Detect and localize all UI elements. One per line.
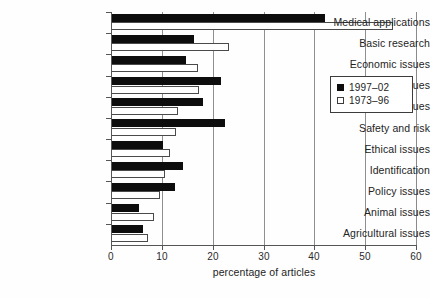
x-axis-tick-label: 20 <box>193 251 233 262</box>
x-axis-tick <box>162 245 163 250</box>
x-axis-tick <box>416 245 417 250</box>
bar <box>111 35 194 43</box>
y-axis-line <box>111 12 112 246</box>
x-axis-tick-label: 10 <box>142 251 182 262</box>
bar <box>111 64 198 72</box>
legend: 1997–02 1973–96 <box>330 76 413 113</box>
x-axis-tick <box>365 245 366 250</box>
y-axis-tick <box>106 54 111 55</box>
y-axis-tick <box>106 181 111 182</box>
y-axis-tick <box>106 97 111 98</box>
x-axis-tick-label: 50 <box>345 251 385 262</box>
bar <box>111 170 165 178</box>
bar <box>111 43 229 51</box>
legend-label: 1973–96 <box>349 95 389 106</box>
x-axis-tick-label: 30 <box>244 251 284 262</box>
bar <box>111 77 221 85</box>
category-label: Medical applications <box>326 16 430 28</box>
category-label: Economic issues <box>326 58 430 70</box>
x-axis-tick-label: 40 <box>294 251 334 262</box>
bar <box>111 128 176 136</box>
bar <box>111 119 225 127</box>
y-axis-tick <box>106 224 111 225</box>
bar <box>111 213 154 221</box>
category-label: Agricultural issues <box>326 227 430 239</box>
category-label: Animal issues <box>326 206 430 218</box>
y-axis-tick <box>106 118 111 119</box>
bar <box>111 14 325 22</box>
bar <box>111 107 178 115</box>
bar <box>111 162 183 170</box>
legend-swatch-open-square-icon <box>337 97 344 104</box>
y-axis-tick <box>106 203 111 204</box>
y-axis-tick <box>106 12 111 13</box>
bar <box>111 225 143 233</box>
y-axis-tick <box>106 139 111 140</box>
x-axis-tick <box>213 245 214 250</box>
bar <box>111 234 148 242</box>
legend-swatch-filled-square-icon <box>337 84 344 91</box>
gridline <box>264 12 265 245</box>
x-axis-tick <box>264 245 265 250</box>
category-label: Policy issues <box>326 185 430 197</box>
bar <box>111 149 170 157</box>
category-label: Safety and risk <box>326 122 430 134</box>
category-label: Ethical issues <box>326 143 430 155</box>
y-axis-tick <box>106 33 111 34</box>
category-label: Basic research <box>326 37 430 49</box>
x-axis-tick <box>314 245 315 250</box>
gridline <box>314 12 315 245</box>
bar <box>111 191 160 199</box>
x-axis-tick-label: 0 <box>91 251 131 262</box>
bar <box>111 98 203 106</box>
x-axis-tick-label: 60 <box>396 251 435 262</box>
y-axis-tick <box>106 160 111 161</box>
legend-label: 1997–02 <box>349 82 389 93</box>
bar <box>111 86 199 94</box>
x-axis-title: percentage of articles <box>111 266 417 278</box>
legend-item-0: 1997–02 <box>337 81 407 94</box>
x-axis-tick <box>111 245 112 250</box>
legend-item-1: 1973–96 <box>337 94 407 107</box>
bar <box>111 204 139 212</box>
bar <box>111 56 186 64</box>
y-axis-tick <box>106 76 111 77</box>
bar <box>111 141 163 149</box>
category-label: Identification <box>326 164 430 176</box>
bar <box>111 183 175 191</box>
